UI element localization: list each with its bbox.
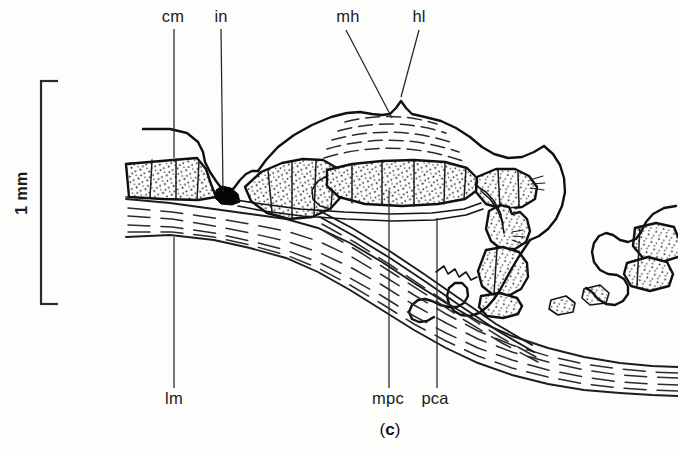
leader-mh [346,30,392,118]
upper-stippled-bar [327,160,477,206]
anatomical-drawing: 1 mm cm in mh hl lm mpc pca (c) [0,0,678,453]
label-pca: pca [421,389,449,407]
in-sclerite-blob [215,186,240,205]
caption-close-paren: ) [395,420,401,439]
label-lm: lm [165,389,183,407]
scale-bar: 1 mm [13,80,58,305]
label-in: in [214,7,227,25]
left-stippled-lobe [126,158,216,200]
label-hl: hl [412,7,425,25]
caption-letter: c [385,420,394,439]
leader-in [221,29,223,192]
leader-hl [401,30,419,97]
label-mpc: mpc [372,389,404,407]
mh-fan-striations [324,116,463,161]
label-cm: cm [162,7,184,25]
zigzag-notch [436,266,477,280]
far-right-segments [624,223,678,291]
label-mh: mh [336,7,359,25]
svg-text:(c): (c) [380,420,401,439]
figure-panel: 1 mm cm in mh hl lm mpc pca (c) [0,0,678,453]
scale-bar-label: 1 mm [13,171,30,214]
figure-caption: (c) [380,420,401,439]
